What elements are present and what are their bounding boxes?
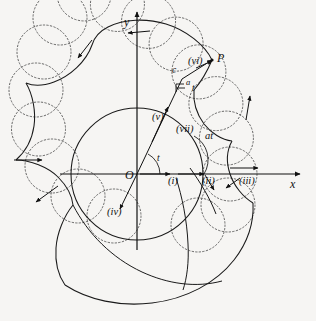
callout-iv: (iv) <box>107 207 122 218</box>
epitrochoid-figure: y x O P c a t t at (i) (ii) (iii) (iv) (… <box>0 0 316 321</box>
x-axis-label: x <box>290 178 295 190</box>
rolling-circles-dotted <box>9 0 257 252</box>
callout-v: (v) <box>152 112 164 123</box>
callout-iii: (iii) <box>239 176 255 187</box>
origin-label: O <box>125 169 134 181</box>
radius-a-bracket <box>176 84 185 92</box>
y-axis-label: y <box>124 16 129 28</box>
point-P-label: P <box>217 52 224 64</box>
epitrochoid-inner-arcs <box>73 168 222 290</box>
point-P-marker <box>210 58 213 61</box>
arc-at-on-rolling <box>194 136 208 174</box>
arrow-to-iii-label <box>226 178 240 188</box>
arc-at-label: at <box>205 131 213 142</box>
angle-t-label: t <box>157 154 160 164</box>
callout-vii: (vii) <box>176 124 194 135</box>
radius-a-label: a <box>186 78 190 87</box>
angle-t-at-C-label: t <box>192 84 195 94</box>
callout-ii: (ii) <box>202 176 215 187</box>
center-C-label: c <box>172 66 176 76</box>
callout-vi: (vi) <box>188 56 203 67</box>
callout-i: (i) <box>168 176 178 187</box>
